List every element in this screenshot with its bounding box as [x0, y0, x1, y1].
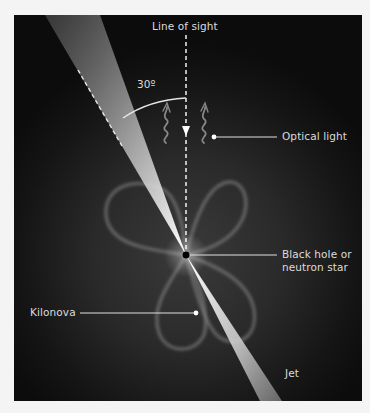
optical-light-label: Optical light	[282, 130, 347, 143]
optical-light-leader-dot	[212, 135, 217, 140]
kilonova-label: Kilonova	[30, 306, 76, 319]
diagram-panel: Line of sight 30º Optical light Black ho…	[14, 15, 362, 401]
black-hole-label: Black hole or neutron star	[282, 248, 360, 274]
wavy-arrow-up-icon	[201, 103, 208, 143]
jet-label: Jet	[285, 367, 299, 380]
line-of-sight-arrowhead-icon	[182, 126, 190, 136]
angle-label: 30º	[137, 78, 156, 91]
wavy-arrow-up-icon	[163, 103, 170, 143]
line-of-sight-label: Line of sight	[152, 20, 218, 33]
kilonova-leader-dot	[194, 311, 199, 316]
black-hole-dot	[183, 252, 190, 259]
jet-beam-upper	[45, 15, 186, 255]
diagram-artwork	[14, 15, 362, 401]
